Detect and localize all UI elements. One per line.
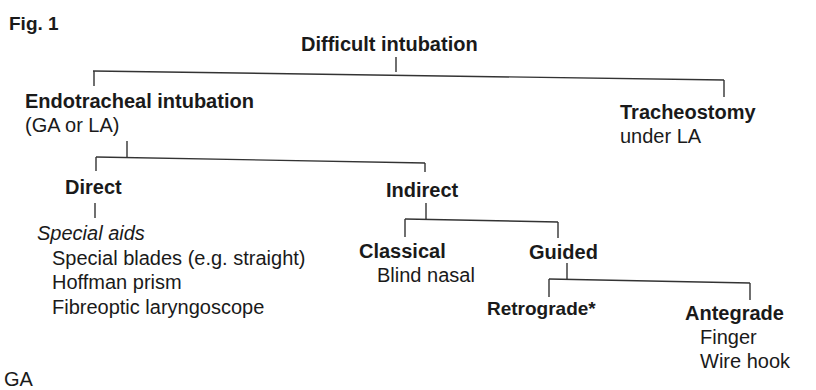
antegrade-item: Finger (700, 327, 757, 347)
node-root-title: Difficult intubation (301, 34, 478, 54)
node-endotracheal-title: Endotracheal intubation (25, 91, 254, 111)
node-antegrade-title: Antegrade (685, 303, 784, 323)
direct-aids-heading: Special aids (37, 223, 145, 243)
node-indirect-title: Indirect (386, 180, 458, 200)
antegrade-item: Wire hook (700, 351, 790, 371)
node-tracheostomy-subtitle: under LA (620, 126, 701, 146)
direct-aid-item: Hoffman prism (52, 272, 182, 292)
level3-bar (405, 219, 558, 222)
node-endotracheal-subtitle: (GA or LA) (25, 115, 119, 135)
direct-aid-item: Special blades (e.g. straight) (52, 248, 305, 268)
node-guided-title: Guided (529, 242, 598, 262)
node-retrograde-title: Retrograde* (487, 299, 596, 318)
classical-item: Blind nasal (377, 265, 475, 285)
level2-bar (96, 157, 425, 163)
direct-aid-item: Fibreoptic laryngoscope (52, 297, 264, 317)
node-classical-title: Classical (359, 241, 446, 261)
node-tracheostomy-title: Tracheostomy (620, 102, 756, 122)
footnote-partial: GA (4, 369, 33, 389)
node-direct-title: Direct (65, 177, 122, 197)
level1-bar (93, 71, 724, 80)
figure-label: Fig. 1 (9, 14, 59, 33)
level4-bar (549, 279, 750, 283)
